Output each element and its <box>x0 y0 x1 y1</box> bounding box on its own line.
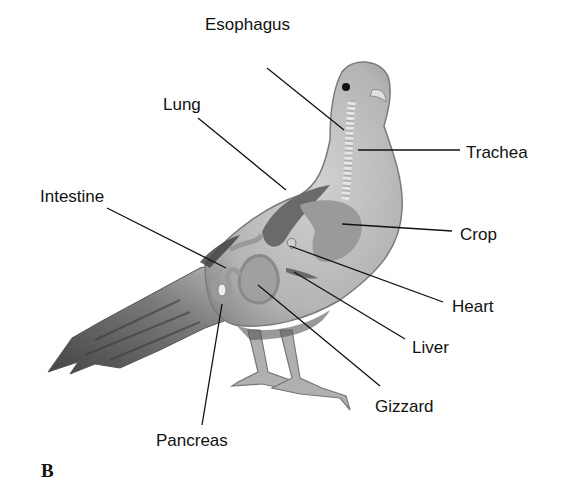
anatomy-diagram: Esophagus Lung Trachea Intestine Crop He… <box>0 0 572 482</box>
eye <box>342 83 350 91</box>
pancreas-shape <box>218 284 226 296</box>
label-gizzard: Gizzard <box>375 398 434 415</box>
label-lung: Lung <box>163 96 201 113</box>
label-liver: Liver <box>412 339 449 356</box>
label-crop: Crop <box>460 226 497 243</box>
lung-leader <box>198 118 286 190</box>
legs <box>232 330 350 410</box>
label-pancreas: Pancreas <box>156 432 228 449</box>
gizzard-shape <box>239 256 278 303</box>
label-intestine: Intestine <box>40 188 104 205</box>
label-esophagus: Esophagus <box>205 16 290 33</box>
label-heart: Heart <box>452 298 494 315</box>
label-trachea: Trachea <box>466 144 528 161</box>
intestine-leader <box>107 208 226 268</box>
panel-label: B <box>41 461 54 480</box>
